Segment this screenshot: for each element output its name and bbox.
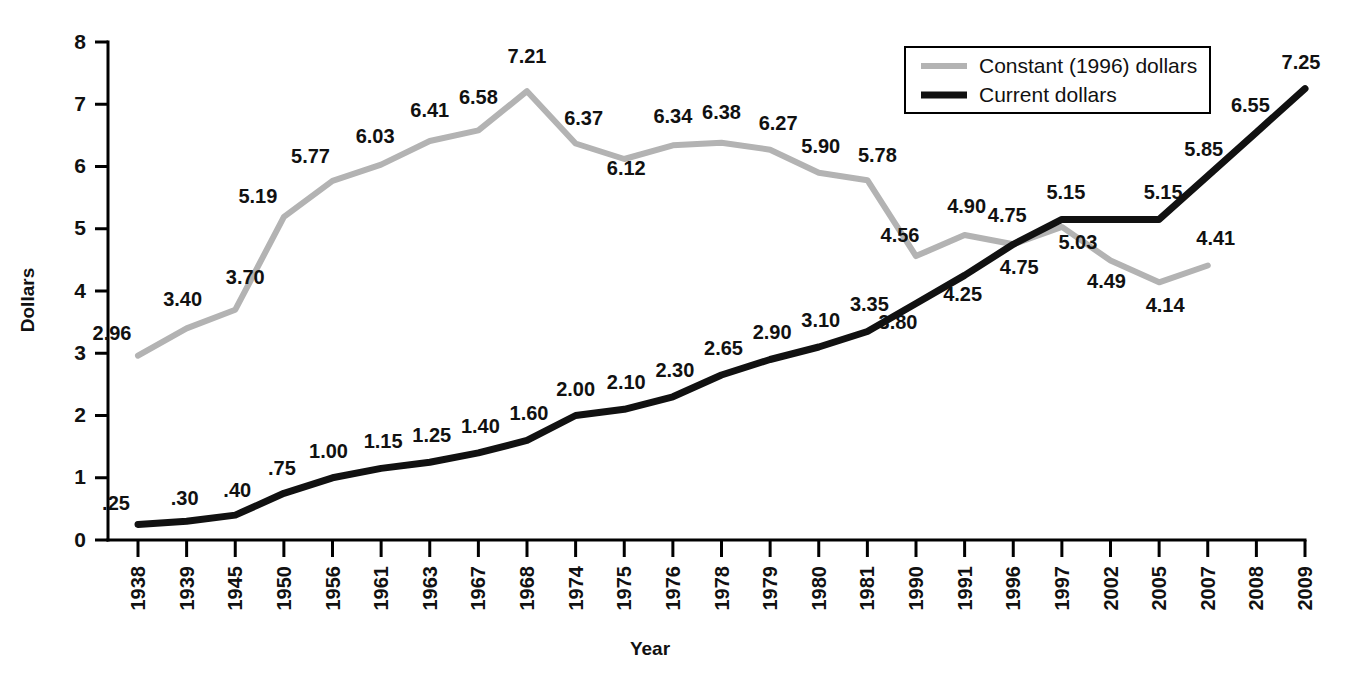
data-label: 4.25: [943, 283, 982, 305]
x-tick-label: 1939: [176, 566, 198, 611]
x-tick-label: 1974: [565, 565, 587, 610]
x-tick-label: 1945: [224, 566, 246, 611]
data-label: 6.03: [356, 125, 395, 147]
data-label: 4.56: [881, 224, 920, 246]
data-label: 6.41: [410, 99, 449, 121]
y-axis: 012345678: [74, 30, 108, 551]
x-tick-label: 1967: [467, 566, 489, 611]
data-label: 5.15: [1144, 181, 1183, 203]
x-tick-label: 1975: [613, 566, 635, 611]
data-label: 2.90: [753, 321, 792, 343]
x-tick-label: 1938: [127, 566, 149, 611]
data-labels: 2.963.403.705.195.776.036.416.587.216.37…: [93, 45, 1321, 514]
data-label: 6.37: [564, 107, 603, 129]
x-tick-label: 1968: [516, 566, 538, 611]
data-label: 5.19: [238, 185, 277, 207]
data-label: 5.90: [801, 135, 840, 157]
data-label: 3.80: [879, 311, 918, 333]
data-label: 5.15: [1046, 181, 1085, 203]
data-label: 4.49: [1087, 270, 1126, 292]
data-label: .75: [268, 457, 296, 479]
data-label: 7.21: [508, 45, 547, 67]
data-label: 2.10: [607, 371, 646, 393]
data-label: 1.40: [461, 415, 500, 437]
data-label: 5.85: [1184, 138, 1223, 160]
x-tick-label: 1991: [954, 566, 976, 611]
data-label: 4.90: [947, 195, 986, 217]
data-label: 3.70: [226, 266, 265, 288]
x-tick-label: 1997: [1051, 566, 1073, 611]
y-tick-label: 4: [74, 279, 86, 302]
x-tick-label: 1963: [419, 566, 441, 611]
y-tick-label: 2: [74, 403, 86, 426]
x-tick-label: 1950: [273, 566, 295, 611]
data-label: 1.15: [364, 430, 403, 452]
y-axis-title: Dollars: [17, 268, 38, 332]
data-label: 2.65: [704, 337, 743, 359]
y-tick-label: 7: [74, 92, 86, 115]
data-label: 6.38: [702, 101, 741, 123]
data-label: 6.27: [759, 112, 798, 134]
y-tick-label: 1: [74, 465, 86, 488]
data-label: .25: [102, 492, 130, 514]
x-tick-label: 1996: [1002, 566, 1024, 611]
x-axis: 1938193919451950195619611963196719681974…: [108, 540, 1316, 611]
data-label: 1.00: [309, 440, 348, 462]
data-label: 3.10: [801, 309, 840, 331]
data-label: 4.14: [1146, 294, 1186, 316]
data-label: 3.40: [163, 288, 202, 310]
data-label: 4.75: [1000, 256, 1039, 278]
data-label: 2.00: [556, 378, 595, 400]
y-tick-label: 6: [74, 154, 86, 177]
legend-label: Constant (1996) dollars: [979, 54, 1197, 77]
x-tick-label: 2005: [1148, 566, 1170, 611]
data-label: 1.25: [412, 424, 451, 446]
data-label: 1.60: [510, 402, 549, 424]
data-label: 6.55: [1231, 94, 1270, 116]
data-label: 6.34: [653, 105, 693, 127]
x-tick-label: 2008: [1245, 566, 1267, 611]
y-tick-label: 8: [74, 30, 86, 53]
chart-legend: Constant (1996) dollarsCurrent dollars: [905, 47, 1210, 113]
x-tick-label: 2009: [1294, 566, 1316, 611]
x-axis-title: Year: [630, 638, 671, 659]
x-tick-label: 2007: [1197, 566, 1219, 611]
data-label: 2.96: [93, 322, 132, 344]
x-tick-label: 1956: [322, 566, 344, 611]
x-tick-label: 1979: [759, 566, 781, 611]
x-tick-label: 1978: [711, 566, 733, 611]
data-label: 6.12: [607, 157, 646, 179]
data-label: 7.25: [1282, 51, 1321, 73]
x-tick-label: 2002: [1100, 566, 1122, 611]
data-label: 4.41: [1196, 227, 1235, 249]
x-tick-label: 1980: [808, 566, 830, 611]
data-label: 5.77: [291, 145, 330, 167]
data-label: 6.58: [459, 86, 498, 108]
data-label: .30: [171, 487, 199, 509]
data-label: .40: [223, 479, 251, 501]
legend-label: Current dollars: [979, 83, 1117, 106]
data-label: 4.75: [988, 204, 1027, 226]
y-tick-label: 3: [74, 341, 86, 364]
data-label: 5.03: [1058, 231, 1097, 253]
x-tick-label: 1981: [856, 566, 878, 611]
chart-container: 012345678 193819391945195019561961196319…: [0, 0, 1351, 687]
data-label: 2.30: [655, 359, 694, 381]
y-tick-label: 5: [74, 216, 86, 239]
line-chart: 012345678 193819391945195019561961196319…: [0, 0, 1351, 687]
x-tick-label: 1990: [905, 566, 927, 611]
y-tick-label: 0: [74, 528, 86, 551]
x-tick-label: 1976: [662, 566, 684, 611]
x-tick-label: 1961: [370, 566, 392, 611]
data-label: 5.78: [858, 144, 897, 166]
